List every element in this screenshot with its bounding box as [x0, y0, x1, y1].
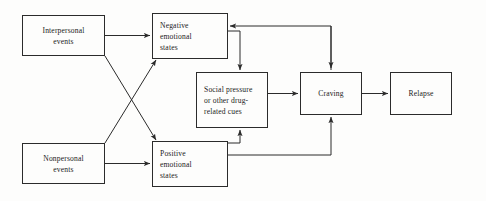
node-craving: Craving	[300, 72, 362, 115]
node-social-pressure-cues: Social pressure or other drug- related c…	[196, 72, 268, 128]
edge-positive-to-social	[228, 130, 240, 143]
node-positive-emotional-states: Positive emotional states	[152, 141, 228, 187]
flowchart-diagram: Interpersonal events Nonpersonal events …	[0, 0, 486, 201]
edge-negative-to-social	[228, 31, 240, 70]
node-craving-label: Craving	[318, 88, 344, 99]
node-negative-emotional-states-label: Negative emotional states	[153, 20, 192, 53]
node-social-pressure-cues-label: Social pressure or other drug- related c…	[197, 84, 252, 117]
node-positive-emotional-states-label: Positive emotional states	[153, 148, 192, 181]
node-nonpersonal-events-label: Nonpersonal events	[43, 153, 83, 175]
edge-craving-to-negative-feedback	[230, 26, 331, 70]
node-relapse-label: Relapse	[408, 88, 433, 99]
node-nonpersonal-events: Nonpersonal events	[22, 143, 105, 184]
node-interpersonal-events-label: Interpersonal events	[42, 25, 84, 47]
edge-nonpersonal-to-negative	[105, 60, 156, 143]
edge-interpersonal-to-positive	[105, 56, 156, 140]
node-interpersonal-events: Interpersonal events	[22, 15, 105, 56]
node-negative-emotional-states: Negative emotional states	[152, 13, 228, 59]
node-relapse: Relapse	[390, 72, 452, 115]
